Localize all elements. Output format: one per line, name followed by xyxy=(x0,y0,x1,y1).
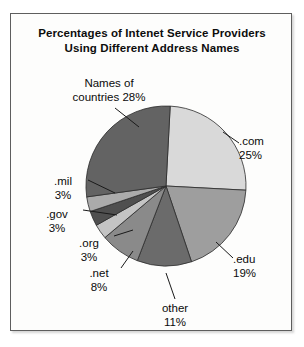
pie-slice-com xyxy=(166,106,246,190)
pie-label-edu: .edu 19% xyxy=(233,252,293,280)
pie-slice-countries xyxy=(86,106,170,197)
chart-frame: Percentages of Intenet Service Providers… xyxy=(10,13,292,331)
pie-label-countries: Names of countries 28% xyxy=(49,76,169,104)
pie-svg xyxy=(11,14,293,332)
pie-label-other: other 11% xyxy=(140,301,210,329)
pie-chart: Names of countries 28% .com 25% .edu 19%… xyxy=(11,14,293,332)
pie-label-mil: .mil 3% xyxy=(37,174,89,202)
pie-label-net: .net 8% xyxy=(73,266,125,294)
figure-root: Percentages of Intenet Service Providers… xyxy=(0,0,304,347)
pie-label-org: .org 3% xyxy=(63,236,115,264)
pie-label-gov: .gov 3% xyxy=(31,207,83,235)
pie-label-com: .com 25% xyxy=(239,134,299,162)
leader-line-edu xyxy=(216,242,233,258)
leader-line-other xyxy=(166,273,175,299)
